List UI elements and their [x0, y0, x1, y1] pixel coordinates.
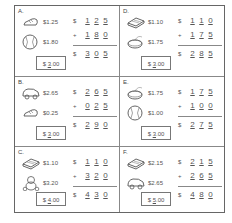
baseball-icon	[21, 34, 41, 50]
item-price: $1.10	[148, 19, 163, 25]
digit: 1	[188, 101, 197, 110]
digit: 0	[206, 16, 215, 25]
amount-paid-box: $ 3.00	[141, 56, 171, 70]
addend-2: +025	[73, 101, 117, 115]
amount-paid-box: $ 3.00	[36, 126, 66, 140]
sign: $	[73, 51, 83, 57]
digit: 1	[197, 157, 206, 166]
sum-total: $305	[73, 49, 117, 63]
paid-prefix: $	[148, 131, 151, 137]
paid-cents: .00	[156, 61, 164, 67]
digit: 2	[83, 120, 92, 129]
sum-rule	[73, 186, 117, 187]
addition-problem: $110+175$285	[178, 16, 222, 63]
addend-2: +320	[73, 171, 117, 185]
addend-2: +265	[178, 171, 222, 185]
digit: 1	[188, 87, 197, 96]
item-price: $2.15	[148, 160, 163, 166]
sign: +	[178, 103, 188, 109]
item-price: $2.65	[43, 90, 58, 96]
item-price: $1.75	[148, 90, 163, 96]
digit: 1	[83, 157, 92, 166]
paid-prefix: $	[43, 61, 46, 67]
yo-yo-icon	[126, 34, 146, 50]
digit: 0	[197, 101, 206, 110]
sum-total: $285	[178, 49, 222, 63]
sum-rule	[178, 45, 222, 46]
item: $2.65	[126, 175, 176, 191]
sum-total: $275	[178, 120, 222, 134]
digit: 3	[92, 190, 101, 199]
paid-cents: .00	[51, 131, 59, 137]
amount-paid-box: $ 4.00	[36, 192, 66, 206]
digit: 1	[83, 30, 92, 39]
item: $1.25	[21, 14, 71, 30]
problem-f: F.$2.15$2.65$ 5.00$215+265$480	[120, 147, 224, 212]
amount-paid-box: $ 3.00	[36, 56, 66, 70]
digit: 5	[206, 171, 215, 180]
addition-problem: $265+025$290	[73, 87, 117, 134]
item: $2.15	[126, 155, 176, 171]
paid-prefix: $	[43, 197, 46, 203]
sum-rule	[73, 116, 117, 117]
item: $1.75	[126, 85, 176, 101]
digit: 0	[101, 30, 110, 39]
digit: 2	[188, 171, 197, 180]
digit: 2	[188, 49, 197, 58]
digit: 5	[101, 87, 110, 96]
paid-cents: .00	[156, 131, 164, 137]
addend-1: $110	[73, 157, 117, 171]
digit: 3	[83, 49, 92, 58]
yo-yo-icon	[126, 85, 146, 101]
addend-1: $110	[178, 16, 222, 30]
paid-prefix: $	[148, 197, 151, 203]
item-price: $1.80	[43, 39, 58, 45]
teddy-bear-icon	[21, 175, 41, 191]
digit: 5	[206, 157, 215, 166]
sign: $	[73, 89, 83, 95]
digit: 2	[188, 120, 197, 129]
digit: 0	[83, 101, 92, 110]
addition-problem: $125+180$305	[73, 16, 117, 63]
toy-car-icon	[21, 85, 41, 101]
digit: 0	[206, 190, 215, 199]
digit: 7	[197, 120, 206, 129]
digit: 0	[101, 157, 110, 166]
sign: $	[178, 18, 188, 24]
problem-a: A.$1.25$1.80$ 3.00$125+180$305	[15, 6, 120, 77]
digit: 5	[206, 120, 215, 129]
digit: 2	[92, 101, 101, 110]
item: $1.10	[126, 14, 176, 30]
digit: 1	[197, 16, 206, 25]
sum-rule	[178, 116, 222, 117]
problem-c: C.$1.10$3.20$ 4.00$110+320$430	[15, 147, 120, 212]
sum-total: $430	[73, 190, 117, 204]
paid-cents: .00	[156, 197, 164, 203]
book-icon	[21, 155, 41, 171]
amount-paid-box: $ 3.00	[141, 126, 171, 140]
worksheet: A.$1.25$1.80$ 3.00$125+180$305B.$2.65$0.…	[14, 5, 225, 213]
sum-rule	[178, 186, 222, 187]
problem-b: B.$2.65$0.25$ 3.00$265+025$290	[15, 77, 120, 147]
digit: 1	[188, 16, 197, 25]
digit: 0	[101, 120, 110, 129]
book-icon	[126, 155, 146, 171]
digit: 5	[206, 49, 215, 58]
digit: 7	[197, 30, 206, 39]
item-price: $1.75	[148, 39, 163, 45]
paid-prefix: $	[148, 61, 151, 67]
digit: 1	[83, 16, 92, 25]
addend-2: +180	[73, 30, 117, 44]
sign: +	[178, 173, 188, 179]
sum-total: $290	[73, 120, 117, 134]
digit: 2	[83, 87, 92, 96]
digit: 3	[83, 171, 92, 180]
problem-e: E.$1.75$1.00$ 3.00$175+100$275	[120, 77, 224, 147]
digit: 4	[188, 190, 197, 199]
addend-2: +100	[178, 101, 222, 115]
sum-rule	[73, 45, 117, 46]
sign: $	[178, 89, 188, 95]
sign: $	[73, 122, 83, 128]
item: $3.20	[21, 175, 71, 191]
paid-prefix: $	[43, 131, 46, 137]
